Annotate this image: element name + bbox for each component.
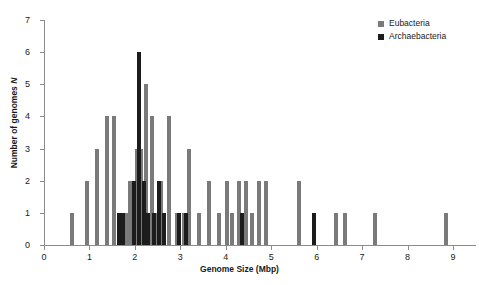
histogram-bar xyxy=(85,181,89,245)
legend-label: Archaebacteria xyxy=(389,32,446,41)
histogram-bar xyxy=(244,181,248,245)
histogram-bar xyxy=(177,213,181,245)
histogram-bar xyxy=(105,116,109,245)
x-tick-label: 2 xyxy=(125,252,145,262)
x-tick xyxy=(362,246,363,250)
x-tick-label: 4 xyxy=(216,252,236,262)
x-tick-label: 0 xyxy=(34,252,54,262)
histogram-bar xyxy=(95,149,99,245)
histogram-bar xyxy=(444,213,448,245)
legend-swatch-icon xyxy=(378,34,384,40)
x-tick xyxy=(453,246,454,250)
legend-swatch-icon xyxy=(378,21,384,27)
histogram-bar xyxy=(197,213,201,245)
x-tick-label: 5 xyxy=(261,252,281,262)
x-tick xyxy=(89,246,90,250)
x-tick xyxy=(44,246,45,250)
histogram-bar xyxy=(132,181,136,245)
x-tick xyxy=(135,246,136,250)
x-axis-title: Genome Size (Mbp) xyxy=(0,264,479,274)
histogram-bar xyxy=(250,213,254,245)
histogram-bar xyxy=(157,181,161,245)
y-axis-title-text: Number of genomes xyxy=(9,84,19,169)
histogram-bar xyxy=(70,213,74,245)
y-tick-label: 0 xyxy=(0,240,30,250)
y-axis-title: Number of genomes N xyxy=(9,43,19,203)
x-tick xyxy=(408,246,409,250)
x-tick xyxy=(226,246,227,250)
histogram-bar xyxy=(142,181,146,245)
x-tick-label: 8 xyxy=(398,252,418,262)
histogram-bar xyxy=(264,181,268,245)
legend-item-ar: Archaebacteria xyxy=(378,30,446,43)
x-axis-line xyxy=(44,245,476,246)
histogram-bar xyxy=(230,213,234,245)
histogram-bar xyxy=(121,213,125,245)
legend-item-eu: Eubacteria xyxy=(378,17,446,30)
legend-label: Eubacteria xyxy=(389,19,430,28)
histogram-bar xyxy=(184,213,188,245)
histogram-bar xyxy=(373,213,377,245)
histogram-bar xyxy=(312,213,316,245)
x-tick-label: 1 xyxy=(79,252,99,262)
histogram-bar xyxy=(112,116,116,245)
x-tick-label: 6 xyxy=(307,252,327,262)
histogram-bar xyxy=(343,213,347,245)
plot-area xyxy=(44,20,453,245)
y-axis-title-variable: N xyxy=(9,78,19,84)
histogram-bar xyxy=(137,52,141,245)
histogram-bar xyxy=(240,213,244,245)
histogram-bar xyxy=(146,213,150,245)
x-tick-label: 7 xyxy=(352,252,372,262)
histogram-bar xyxy=(297,181,301,245)
x-tick-label: 9 xyxy=(443,252,463,262)
histogram-bar xyxy=(152,213,156,245)
x-tick xyxy=(271,246,272,250)
y-tick-label: 1 xyxy=(0,208,30,218)
y-tick-label: 7 xyxy=(0,15,30,25)
histogram-bar xyxy=(162,213,166,245)
histogram-chart: 01234567 0123456789 Genome Size (Mbp) Nu… xyxy=(0,0,479,285)
histogram-bar xyxy=(257,181,261,245)
legend: EubacteriaArchaebacteria xyxy=(378,17,446,43)
histogram-bar xyxy=(225,181,229,245)
x-tick-label: 3 xyxy=(170,252,190,262)
x-tick xyxy=(317,246,318,250)
x-tick xyxy=(180,246,181,250)
histogram-bar xyxy=(217,213,221,245)
histogram-bar xyxy=(167,116,171,245)
histogram-bar xyxy=(334,213,338,245)
histogram-bar xyxy=(207,181,211,245)
